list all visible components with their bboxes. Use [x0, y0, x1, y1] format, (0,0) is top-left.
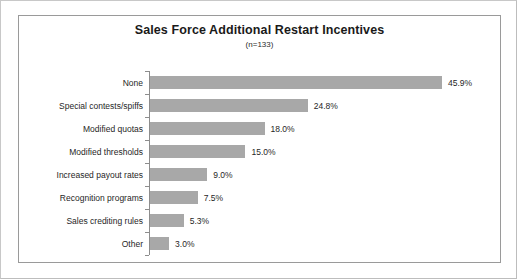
bar-row: Other3.0% — [19, 232, 502, 255]
category-label: Increased payout rates — [19, 163, 143, 186]
category-label: Sales crediting rules — [19, 209, 143, 232]
chart-image: Sales Force Additional Restart Incentive… — [0, 0, 517, 279]
value-label: 9.0% — [213, 170, 232, 180]
bar-container: 24.8% — [150, 94, 338, 117]
bar-row: Sales crediting rules5.3% — [19, 209, 502, 232]
category-label: Recognition programs — [19, 186, 143, 209]
bar-row: Special contests/spiffs24.8% — [19, 94, 502, 117]
bar — [150, 168, 207, 181]
value-label: 3.0% — [175, 239, 194, 249]
bar-row: Modified quotas18.0% — [19, 117, 502, 140]
bar-container: 3.0% — [150, 232, 194, 255]
plot-area: None45.9%Special contests/spiffs24.8%Mod… — [19, 57, 502, 262]
bar-container: 18.0% — [150, 117, 295, 140]
bar-container: 5.3% — [150, 209, 209, 232]
axis-tick — [145, 209, 149, 210]
bar-container: 45.9% — [150, 71, 472, 94]
axis-tick — [145, 163, 149, 164]
bar — [150, 76, 442, 89]
category-label: Other — [19, 232, 143, 255]
value-label: 45.9% — [448, 78, 472, 88]
axis-tick — [145, 232, 149, 233]
chart-title: Sales Force Additional Restart Incentive… — [19, 23, 500, 37]
chart-subtitle-sample-size: (n=133) — [19, 40, 500, 49]
category-label: Special contests/spiffs — [19, 94, 143, 117]
value-label: 15.0% — [251, 147, 275, 157]
category-label: Modified quotas — [19, 117, 143, 140]
value-label: 5.3% — [190, 216, 209, 226]
bar-row: Modified thresholds15.0% — [19, 140, 502, 163]
bar — [150, 237, 169, 250]
value-label: 24.8% — [314, 101, 338, 111]
bar — [150, 99, 308, 112]
value-label: 18.0% — [271, 124, 295, 134]
bar-row: Increased payout rates9.0% — [19, 163, 502, 186]
axis-tick — [145, 94, 149, 95]
category-label: None — [19, 71, 143, 94]
bar — [150, 122, 265, 135]
bar — [150, 191, 198, 204]
axis-tick — [145, 186, 149, 187]
bar — [150, 145, 245, 158]
bar-container: 15.0% — [150, 140, 276, 163]
bar-row: Recognition programs7.5% — [19, 186, 502, 209]
value-label: 7.5% — [204, 193, 223, 203]
bar-rows: None45.9%Special contests/spiffs24.8%Mod… — [19, 71, 502, 255]
bar — [150, 214, 184, 227]
bar-container: 7.5% — [150, 186, 223, 209]
category-label: Modified thresholds — [19, 140, 143, 163]
bar-container: 9.0% — [150, 163, 233, 186]
chart-frame: Sales Force Additional Restart Incentive… — [18, 15, 501, 263]
axis-tick — [145, 255, 149, 256]
axis-tick — [145, 140, 149, 141]
axis-tick — [145, 71, 149, 72]
bar-row: None45.9% — [19, 71, 502, 94]
axis-tick — [145, 117, 149, 118]
